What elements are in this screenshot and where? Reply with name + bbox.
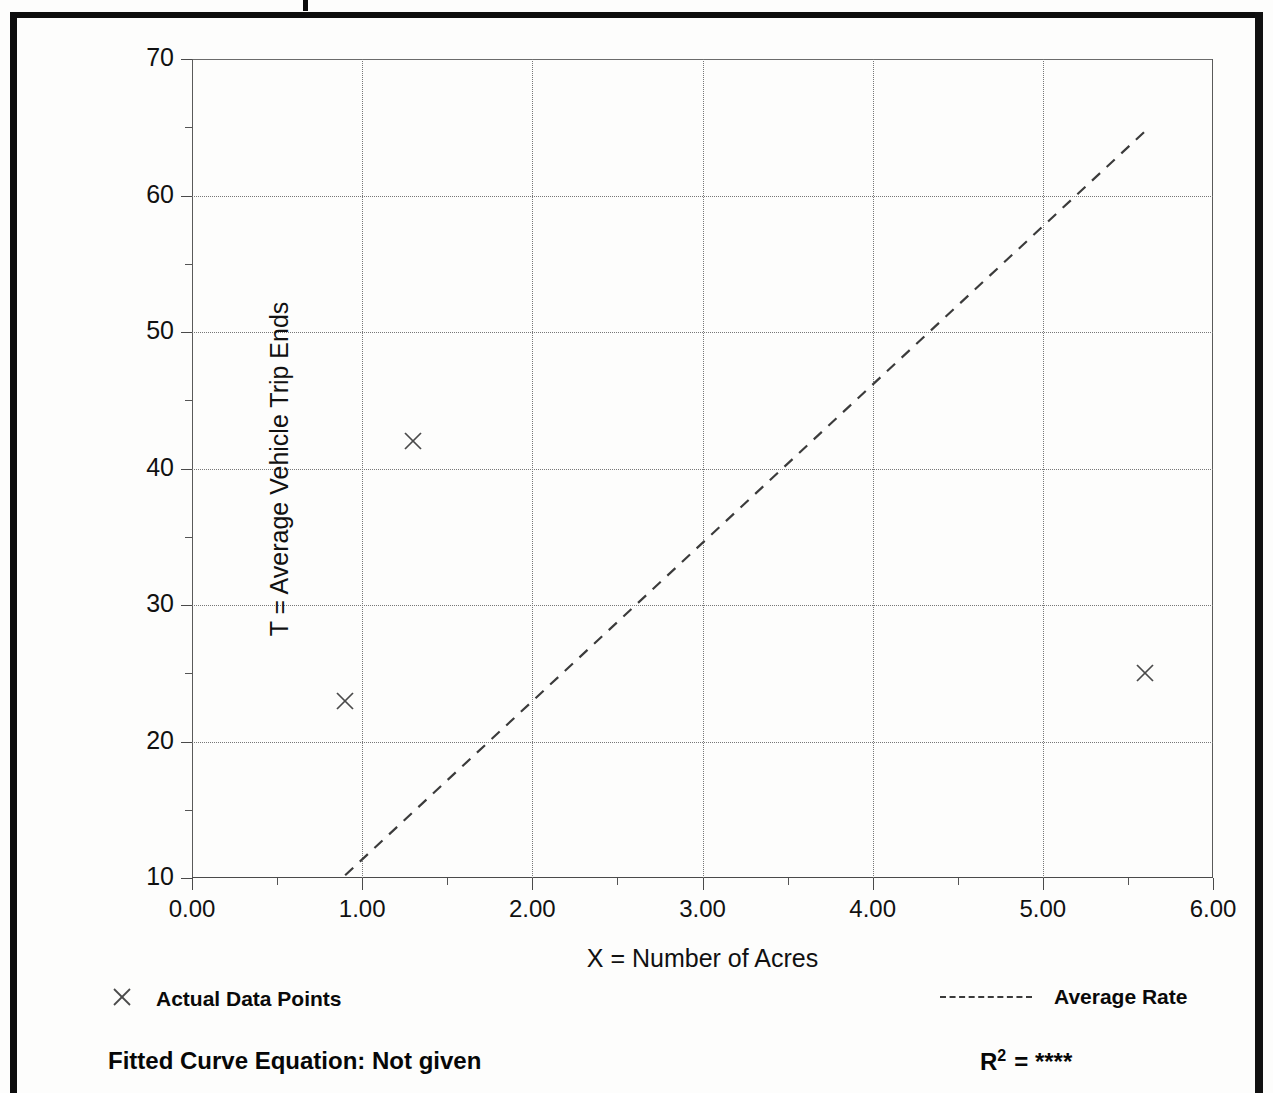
y-tick-label: 30: [114, 589, 174, 618]
fitted-curve-equation: Fitted Curve Equation: Not given: [108, 1047, 481, 1075]
y-tick-major: [181, 196, 192, 197]
x-tick-label: 6.00: [1190, 895, 1237, 923]
x-tick-label: 5.00: [1019, 895, 1066, 923]
x-tick-major: [703, 878, 704, 890]
x-tick-minor: [447, 878, 448, 885]
x-tick-label: 2.00: [509, 895, 556, 923]
x-tick-minor: [617, 878, 618, 885]
y-tick-label: 70: [114, 43, 174, 72]
gridline-vertical: [1043, 59, 1044, 878]
data-point-x-marker: [334, 690, 356, 712]
x-tick-minor: [958, 878, 959, 885]
page-frame-left: [10, 12, 17, 1093]
x-tick-minor: [1128, 878, 1129, 885]
y-tick-major: [181, 332, 192, 333]
r-squared-block: R2 = ****: [980, 1047, 1072, 1076]
gridline-vertical: [362, 59, 363, 878]
r-squared-exponent: 2: [997, 1047, 1006, 1064]
y-tick-label: 20: [114, 726, 174, 755]
x-axis-title: X = Number of Acres: [192, 944, 1213, 973]
dashed-line-icon: [940, 996, 1032, 998]
chart-page: 0.001.002.003.004.005.006.00 T = Average…: [0, 0, 1273, 1093]
legend-label-actual-data-points: Actual Data Points: [156, 987, 342, 1011]
legend-label-average-rate: Average Rate: [1054, 985, 1187, 1009]
r-squared-value: = ****: [1014, 1048, 1072, 1076]
r-squared-letter: R: [980, 1048, 997, 1075]
gridline-vertical: [703, 59, 704, 878]
x-tick-minor: [277, 878, 278, 885]
gridline-vertical: [873, 59, 874, 878]
y-tick-minor: [185, 127, 192, 128]
y-axis-title: T = Average Vehicle Trip Ends: [265, 301, 294, 636]
plot-area: 0.001.002.003.004.005.006.00 T = Average…: [192, 59, 1213, 878]
y-tick-major: [181, 605, 192, 606]
data-point-x-marker: [402, 430, 424, 452]
x-tick-label: 1.00: [339, 895, 386, 923]
cropped-title-mark: [303, 0, 308, 11]
page-frame-right: [1255, 12, 1263, 1093]
y-tick-minor: [185, 673, 192, 674]
x-tick-major: [1043, 878, 1044, 890]
x-tick-major: [873, 878, 874, 890]
fitted-curve-equation-text: Fitted Curve Equation: Not given: [108, 1047, 481, 1075]
legend-row-series: Actual Data Points Average Rate: [0, 985, 1273, 1025]
x-tick-label: 3.00: [679, 895, 726, 923]
x-marker-icon: [110, 985, 134, 1013]
y-tick-minor: [185, 264, 192, 265]
y-tick-label: 60: [114, 180, 174, 209]
y-tick-label: 40: [114, 453, 174, 482]
y-tick-label: 10: [114, 862, 174, 891]
y-tick-major: [181, 742, 192, 743]
y-tick-minor: [185, 400, 192, 401]
x-tick-major: [192, 878, 193, 890]
x-tick-major: [362, 878, 363, 890]
data-point-x-marker: [1134, 662, 1156, 684]
y-tick-major: [181, 469, 192, 470]
chart-legend: Actual Data Points Average Rate Fitted C…: [0, 985, 1273, 1093]
y-tick-minor: [185, 537, 192, 538]
r-squared-label: R2: [980, 1047, 1006, 1076]
page-frame-top: [10, 12, 1263, 18]
x-tick-major: [1213, 878, 1214, 890]
x-tick-label: 0.00: [169, 895, 216, 923]
y-tick-minor: [185, 810, 192, 811]
y-tick-major: [181, 59, 192, 60]
y-tick-label: 50: [114, 316, 174, 345]
legend-row-stats: Fitted Curve Equation: Not given R2 = **…: [0, 1047, 1273, 1087]
y-tick-major: [181, 878, 192, 879]
legend-item-average-rate[interactable]: Average Rate: [940, 985, 1187, 1009]
legend-item-actual-data-points[interactable]: Actual Data Points: [110, 985, 342, 1013]
x-tick-label: 4.00: [849, 895, 896, 923]
x-tick-major: [532, 878, 533, 890]
x-tick-minor: [788, 878, 789, 885]
gridline-vertical: [532, 59, 533, 878]
